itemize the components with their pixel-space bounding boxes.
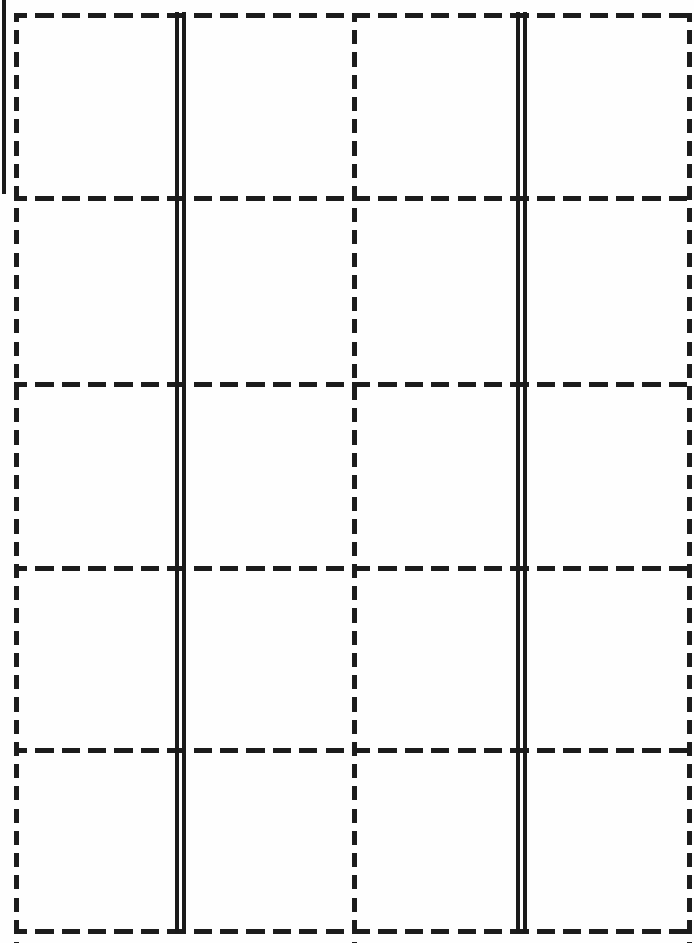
- column-rule-1: [352, 13, 357, 943]
- double-rule-left-line-b: [182, 12, 186, 933]
- double-rule-right-line-b: [523, 12, 527, 933]
- grid-figure: [0, 0, 694, 943]
- left-edge-solid-mark: [2, 0, 6, 194]
- border-right: [687, 13, 692, 943]
- double-rule-right-line-a: [516, 12, 520, 933]
- border-left: [14, 13, 19, 943]
- double-rule-left-line-a: [175, 12, 179, 933]
